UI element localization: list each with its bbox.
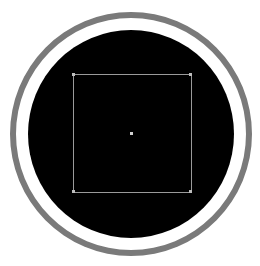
corner-marker-top-right bbox=[189, 73, 192, 76]
corner-marker-top-left bbox=[72, 73, 75, 76]
corner-marker-bottom-left bbox=[72, 190, 75, 193]
center-dot bbox=[130, 132, 133, 135]
corner-marker-bottom-right bbox=[189, 190, 192, 193]
